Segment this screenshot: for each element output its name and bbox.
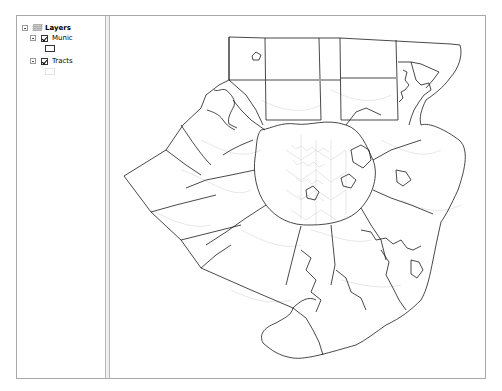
toc-root-label: Layers	[45, 24, 71, 32]
collapse-icon[interactable]	[30, 35, 36, 41]
layers-icon	[33, 24, 42, 32]
toc-root-layers[interactable]: Layers	[22, 23, 71, 33]
layer-name: Munic	[52, 34, 73, 42]
tracts-symbol-swatch[interactable]	[45, 68, 55, 75]
table-of-contents: Layers Munic Tracts	[17, 16, 105, 378]
layer-visibility-checkbox[interactable]	[41, 58, 48, 65]
layer-visibility-checkbox[interactable]	[41, 35, 48, 42]
toc-layer-munic[interactable]: Munic	[30, 33, 73, 43]
layer-name: Tracts	[52, 57, 73, 65]
munic-layer	[124, 37, 465, 358]
toc-layer-tracts[interactable]: Tracts	[30, 56, 73, 66]
collapse-icon[interactable]	[22, 25, 28, 31]
county-map	[110, 16, 485, 378]
munic-symbol-swatch[interactable]	[45, 45, 55, 52]
arcmap-data-frame: Layers Munic Tracts	[16, 15, 486, 379]
collapse-icon[interactable]	[30, 58, 36, 64]
map-view[interactable]	[110, 16, 485, 378]
